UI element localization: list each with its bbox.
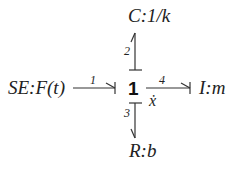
bond-4-number: 4 [159,73,165,88]
source-label: SE:F(t) [8,77,65,99]
bond-1-half-arrow [106,83,115,88]
velocity-annotation: ẋ [149,92,156,110]
inertia-label: I:m [199,77,225,99]
resistor-label: R:b [129,140,156,162]
bond-3-number: 3 [124,106,130,121]
junction-1: 1 [128,78,139,100]
bond-2-number: 2 [124,44,130,59]
capacitor-label: C:1/k [128,5,170,27]
bond-4-half-arrow [181,83,190,88]
bond-1-number: 1 [90,73,96,88]
